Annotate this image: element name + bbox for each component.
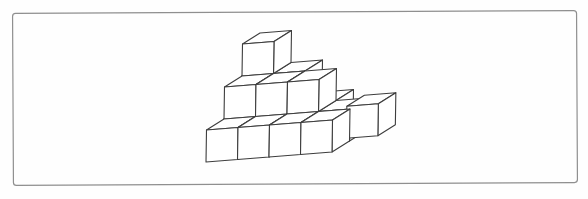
- cube-face: [269, 123, 301, 158]
- page-background: [0, 0, 588, 199]
- cube-face: [346, 104, 378, 139]
- cube-face: [224, 85, 256, 120]
- cube-face: [206, 128, 238, 163]
- cube-figure: [0, 0, 588, 199]
- cube-face: [301, 120, 333, 155]
- cube-face: [287, 80, 319, 115]
- cube-face: [256, 82, 288, 117]
- cube-face: [242, 42, 274, 77]
- cube-face: [238, 125, 270, 160]
